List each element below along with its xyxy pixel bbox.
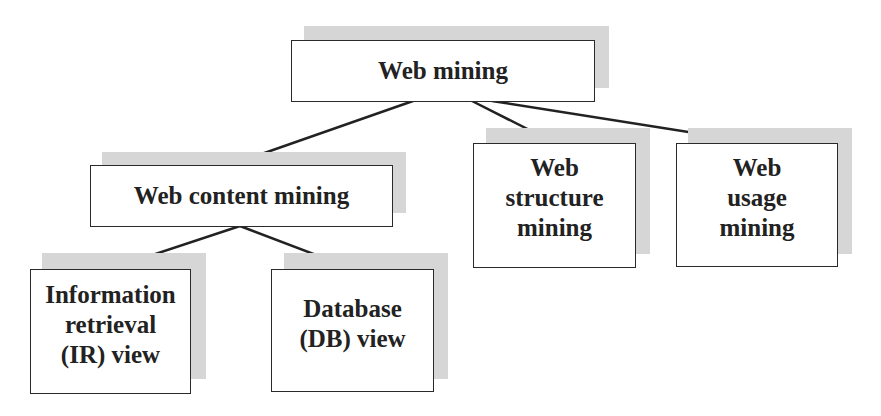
web-mining-taxonomy-diagram: Web mining Web content mining Web struct…: [0, 0, 881, 416]
node-label: Database (DB) view: [299, 294, 405, 354]
node-db-view: Database (DB) view: [271, 269, 434, 392]
node-web-mining: Web mining: [291, 40, 595, 102]
node-web-usage-mining: Web usage mining: [676, 143, 838, 267]
node-label: Information retrieval (IR) view: [45, 280, 176, 370]
node-label: Web usage mining: [719, 153, 794, 243]
node-web-content-mining: Web content mining: [90, 165, 393, 227]
node-label: Web mining: [378, 56, 508, 86]
node-label: Web structure mining: [505, 153, 603, 243]
node-label: Web content mining: [134, 181, 349, 211]
node-web-structure-mining: Web structure mining: [473, 143, 636, 268]
node-ir-view: Information retrieval (IR) view: [30, 269, 191, 394]
